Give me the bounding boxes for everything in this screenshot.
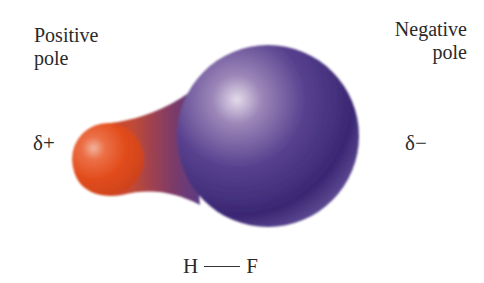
positive-pole-label: Positive pole xyxy=(34,24,98,70)
hydrogen-symbol: H xyxy=(183,254,198,279)
negative-pole-label: Negative pole xyxy=(395,18,467,64)
hydrogen-atom-region xyxy=(72,123,144,195)
fluorine-atom-region xyxy=(177,45,359,227)
fluorine-symbol: F xyxy=(246,254,258,279)
bond-formula: H F xyxy=(183,254,258,279)
partial-positive-charge-label: δ+ xyxy=(33,131,55,156)
partial-negative-charge-label: δ− xyxy=(405,131,427,156)
single-bond-line xyxy=(204,266,240,268)
